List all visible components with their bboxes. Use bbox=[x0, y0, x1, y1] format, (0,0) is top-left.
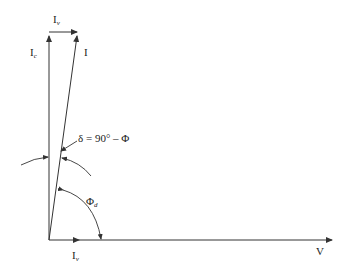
delta-leader-line bbox=[61, 141, 77, 151]
v-label-text: V bbox=[316, 245, 324, 257]
iv-top-label-sub: v bbox=[57, 19, 60, 27]
phi-d-label: Φd bbox=[86, 196, 98, 209]
iv-bottom-arrowhead-icon bbox=[73, 237, 80, 243]
delta-arc-right bbox=[62, 158, 91, 176]
phasor-diagram-canvas bbox=[0, 0, 347, 271]
v-label: V bbox=[316, 246, 324, 257]
iv-bottom-label-sub: v bbox=[76, 255, 79, 263]
phasor-diagram: Iv Ic I δ = 90° – Φ Φd Iv V bbox=[0, 0, 347, 271]
i-label: I bbox=[84, 47, 88, 58]
iv-top-label: Iv bbox=[53, 14, 60, 27]
delta-arc-left bbox=[21, 157, 48, 165]
phi-d-label-main: Φ bbox=[86, 195, 94, 207]
delta-equation-label: δ = 90° – Φ bbox=[78, 133, 129, 144]
delta-equation-text: δ = 90° – Φ bbox=[78, 132, 129, 144]
i-phasor-arrow bbox=[49, 36, 77, 240]
ic-label: Ic bbox=[30, 47, 37, 60]
i-label-main: I bbox=[84, 46, 88, 58]
ic-label-sub: c bbox=[34, 52, 37, 60]
iv-bottom-label: Iv bbox=[72, 250, 79, 263]
phi-d-label-sub: d bbox=[94, 201, 98, 209]
